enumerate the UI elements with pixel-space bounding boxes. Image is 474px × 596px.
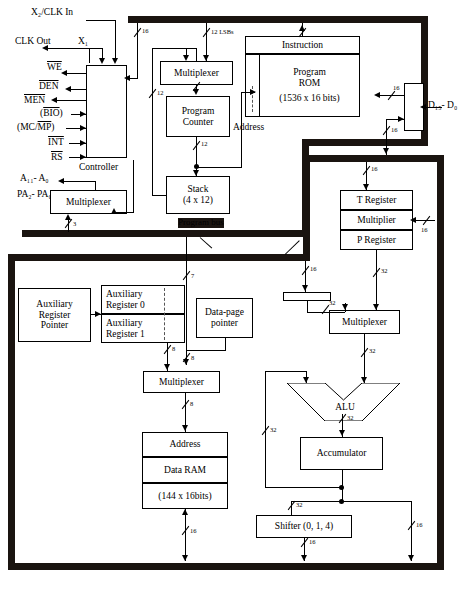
arrow-acc-fb-to-alu: [303, 377, 309, 383]
wire-stack-fb-into-mux: [196, 48, 197, 61]
label-we: WE: [47, 62, 62, 72]
wire-mux-to-alu: [364, 334, 365, 383]
width-8-aux: 8: [172, 345, 175, 352]
arrow-bus-to-controller: [124, 75, 130, 81]
label-int: INT: [48, 137, 64, 147]
ram-address-label: Address: [169, 439, 200, 450]
aux-ptr-line1: Auxiliary: [36, 299, 72, 310]
t-register-label: T Register: [357, 195, 397, 206]
wire-we: [66, 73, 87, 74]
aux-register-dash: [164, 288, 165, 340]
arrow-clkout: [42, 45, 48, 51]
arrow-preg-to-mux: [373, 304, 379, 310]
data-bus-left-vert: [8, 254, 15, 566]
arrow-clkin: [112, 58, 118, 64]
width-7: 7: [191, 272, 194, 279]
wire-clkout-h: [47, 48, 90, 49]
ram-address-block: Address: [142, 432, 228, 457]
aux-ptr-line3: Pointer: [41, 320, 68, 331]
multiplexer-pc-label: Multiplexer: [174, 68, 219, 79]
t-register-block: T Register: [340, 190, 413, 210]
data-page-line2: pointer: [211, 318, 238, 329]
width-32-muxalu: 32: [369, 347, 376, 354]
program-bus-mid-horiz: [302, 139, 428, 146]
label-clk-in: X₂/CLK In: [31, 7, 73, 17]
data-bus-left-step: [303, 155, 310, 255]
multiplier-block: Multiplier: [340, 210, 413, 230]
arrow-mult-in: [410, 217, 416, 223]
width-16-mult: 16: [421, 226, 428, 233]
program-bus-top: [128, 16, 428, 23]
wire-progbus-to-dp: [186, 237, 187, 365]
program-bus-bottom: [22, 230, 309, 237]
arrow-x1: [99, 58, 105, 64]
label-data-pins: D₁₅- D₀: [428, 100, 457, 110]
label-rs: RS: [51, 152, 63, 162]
wire-clkin-h: [86, 20, 116, 21]
arrow-rs: [80, 154, 86, 160]
arrow-databus-to-treg: [363, 184, 369, 190]
label-x1: X₁: [78, 36, 88, 46]
instruction-block: Instruction: [245, 36, 360, 54]
rom-inner-divider: [259, 54, 260, 117]
program-rom-block: Program ROM (1536 x 16 bits): [245, 54, 360, 117]
shifter-block: Shifter (0, 1, 4): [256, 515, 352, 538]
label-address-pins: A₁₁- A₀: [20, 173, 49, 183]
program-rom-size: (1536 x 16 bits): [279, 93, 339, 104]
width-32-shiftin: 32: [296, 501, 303, 508]
aux-register-1-block: Auxiliary Register 1: [101, 314, 185, 343]
program-counter-block: Program Counter: [166, 96, 230, 137]
data-bus-left-horiz: [8, 254, 310, 261]
wire-acc-fb-bottom: [265, 487, 342, 488]
width-32-preg: 32: [381, 267, 388, 274]
wire-dpins-to-buffer: [424, 107, 442, 108]
aux-ptr-line2: Register: [39, 310, 71, 321]
wire-pc-addr-v: [241, 92, 242, 168]
arrow-muxpa-in-right: [111, 208, 117, 214]
label-pa-pins: PA₂- PA₀: [17, 189, 52, 199]
width-16-controller: 16: [142, 27, 149, 34]
arrow-rom-to-buffer: [374, 92, 380, 98]
shifter-label: Shifter (0, 1, 4): [275, 521, 333, 532]
wire-pc-addr-h: [196, 167, 242, 168]
wire-scaler-out-v: [307, 301, 308, 312]
program-bus-label: Program bus: [178, 218, 224, 228]
multiplexer-address-label: Multiplexer: [159, 377, 204, 388]
aux-reg1-line1: Auxiliary: [106, 318, 142, 329]
databus-leader: [285, 240, 300, 255]
label-men: MEN: [24, 95, 45, 105]
arrow-ram-to-databus: [182, 555, 188, 561]
arrow-int: [80, 140, 86, 146]
arrow-men: [51, 97, 57, 103]
arrow-databus-to-scaler: [302, 285, 308, 291]
wire-addr-out-h: [63, 181, 96, 182]
width-16-ram: 16: [190, 527, 197, 534]
arrow-dpins-to-buffer: [420, 104, 426, 110]
width-16-treg: 16: [371, 165, 378, 172]
data-bus-top-right-horiz: [303, 155, 444, 162]
dsp-block-diagram: X₂/CLK In CLK Out X₁ WE DEN MEN (BIO) (M…: [0, 0, 474, 596]
wire-dp-out-h: [186, 350, 226, 351]
wire-men: [56, 100, 87, 101]
multiplexer-pa-label: Multiplexer: [66, 197, 111, 208]
wire-ctrl-to-muxpa-h: [114, 212, 134, 213]
arrow-bus-to-muxpc: [203, 55, 209, 61]
data-ram-size-label: (144 x 16bits): [158, 491, 211, 502]
multiplexer-address-block: Multiplexer: [143, 371, 220, 393]
arrow-buffer-to-databus: [383, 148, 389, 154]
arrow-shifter-to-databus: [301, 555, 307, 561]
address-label: Address: [233, 122, 264, 132]
stack-line2: (4 x 12): [183, 195, 213, 206]
width-32-aluout: 32: [347, 414, 354, 421]
arrow-ram-in: [182, 509, 188, 515]
instruction-label: Instruction: [282, 40, 323, 51]
wire-scaler-out-h: [307, 312, 345, 313]
wire-den: [70, 89, 87, 90]
data-ram-size-block: (144 x 16bits): [142, 483, 228, 509]
width-16-buffer: 16: [391, 126, 398, 133]
arrow-den: [65, 86, 71, 92]
wire-dp-out-v: [225, 338, 226, 350]
wire-clkout-v: [89, 48, 90, 63]
width-32-accfb: 32: [270, 426, 277, 433]
wire-stack-fb-bottom: [152, 195, 166, 196]
